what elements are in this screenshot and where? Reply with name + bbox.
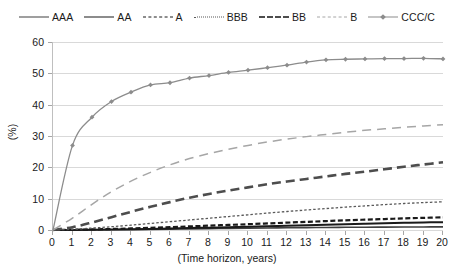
- legend-item-ccc-c[interactable]: CCC/C: [368, 12, 435, 23]
- x-tick-mark: [442, 231, 443, 235]
- x-tick-mark: [384, 231, 385, 235]
- data-point-marker: [324, 57, 329, 62]
- x-tick-mark: [306, 231, 307, 235]
- series-line: [53, 58, 443, 230]
- x-tick-label: 19: [413, 237, 433, 248]
- legend-swatch-icon: [143, 12, 173, 22]
- y-tick-label: 10: [12, 194, 44, 205]
- x-tick-mark: [169, 231, 170, 235]
- y-tick-label: 60: [12, 37, 44, 48]
- x-tick-mark: [247, 231, 248, 235]
- x-tick-label: 8: [198, 237, 218, 248]
- legend-label: BBB: [227, 12, 248, 23]
- chart-container: AAAAAABBBBBBCCC/C (%) 0102030405060 0123…: [0, 0, 454, 274]
- data-point-marker: [343, 57, 348, 62]
- x-tick-label: 17: [374, 237, 394, 248]
- y-axis-title: (%): [6, 112, 18, 152]
- y-tick-label: 50: [12, 68, 44, 79]
- x-tick-label: 7: [179, 237, 199, 248]
- x-axis-title: (Time horizon, years): [0, 252, 454, 264]
- data-point-marker: [168, 80, 173, 85]
- x-tick-label: 12: [276, 237, 296, 248]
- y-tick-label: 40: [12, 100, 44, 111]
- data-point-marker: [70, 143, 75, 148]
- legend-swatch-icon: [19, 12, 49, 22]
- legend-item-a[interactable]: A: [143, 12, 183, 23]
- x-tick-mark: [325, 231, 326, 235]
- x-tick-label: 9: [218, 237, 238, 248]
- legend-item-b[interactable]: B: [317, 12, 357, 23]
- x-tick-label: 20: [432, 237, 452, 248]
- x-tick-mark: [150, 231, 151, 235]
- legend-label: B: [350, 12, 357, 23]
- x-tick-label: 2: [81, 237, 101, 248]
- data-point-marker: [382, 56, 387, 61]
- y-tick-label: 20: [12, 162, 44, 173]
- x-tick-label: 14: [315, 237, 335, 248]
- x-tick-label: 16: [354, 237, 374, 248]
- legend-label: AA: [117, 12, 131, 23]
- x-tick-label: 11: [257, 237, 277, 248]
- x-tick-mark: [267, 231, 268, 235]
- legend-swatch-icon: [368, 12, 398, 22]
- data-point-marker: [187, 76, 192, 81]
- x-tick-label: 10: [237, 237, 257, 248]
- plot-area: [52, 42, 443, 231]
- data-point-marker: [129, 90, 134, 95]
- legend-item-aaa[interactable]: AAA: [19, 12, 73, 23]
- data-point-marker: [246, 68, 251, 73]
- legend-item-bb[interactable]: BB: [259, 12, 306, 23]
- x-tick-label: 3: [101, 237, 121, 248]
- y-tick-label: 0: [12, 225, 44, 236]
- x-tick-mark: [228, 231, 229, 235]
- legend-label: A: [176, 12, 183, 23]
- legend-marker-icon: [380, 14, 386, 20]
- x-tick-label: 1: [62, 237, 82, 248]
- data-point-marker: [421, 56, 426, 61]
- data-point-marker: [441, 57, 446, 62]
- x-tick-label: 18: [393, 237, 413, 248]
- legend-swatch-icon: [317, 12, 347, 22]
- legend-label: CCC/C: [401, 12, 435, 23]
- legend-item-aa[interactable]: AA: [84, 12, 131, 23]
- x-tick-label: 0: [42, 237, 62, 248]
- x-tick-mark: [423, 231, 424, 235]
- x-tick-mark: [208, 231, 209, 235]
- legend-label: BB: [292, 12, 306, 23]
- data-point-marker: [226, 70, 231, 75]
- x-tick-mark: [403, 231, 404, 235]
- x-tick-label: 15: [335, 237, 355, 248]
- legend-item-bbb[interactable]: BBB: [194, 12, 248, 23]
- data-point-marker: [285, 63, 290, 68]
- x-tick-mark: [130, 231, 131, 235]
- legend-swatch-icon: [84, 12, 114, 22]
- x-tick-label: 6: [159, 237, 179, 248]
- data-point-marker: [148, 83, 153, 88]
- x-tick-mark: [286, 231, 287, 235]
- data-point-marker: [402, 56, 407, 61]
- series-layer: [53, 42, 443, 230]
- x-tick-mark: [72, 231, 73, 235]
- legend-swatch-icon: [194, 12, 224, 22]
- data-point-marker: [207, 73, 212, 78]
- data-point-marker: [265, 65, 270, 70]
- x-tick-mark: [52, 231, 53, 235]
- legend-label: AAA: [52, 12, 73, 23]
- x-tick-mark: [364, 231, 365, 235]
- x-tick-mark: [111, 231, 112, 235]
- x-tick-mark: [345, 231, 346, 235]
- x-tick-mark: [189, 231, 190, 235]
- x-tick-mark: [91, 231, 92, 235]
- data-point-marker: [304, 60, 309, 65]
- legend-swatch-icon: [259, 12, 289, 22]
- data-point-marker: [363, 57, 368, 62]
- x-tick-label: 5: [140, 237, 160, 248]
- x-tick-label: 4: [120, 237, 140, 248]
- x-tick-label: 13: [296, 237, 316, 248]
- chart-legend: AAAAAABBBBBBCCC/C: [0, 6, 454, 28]
